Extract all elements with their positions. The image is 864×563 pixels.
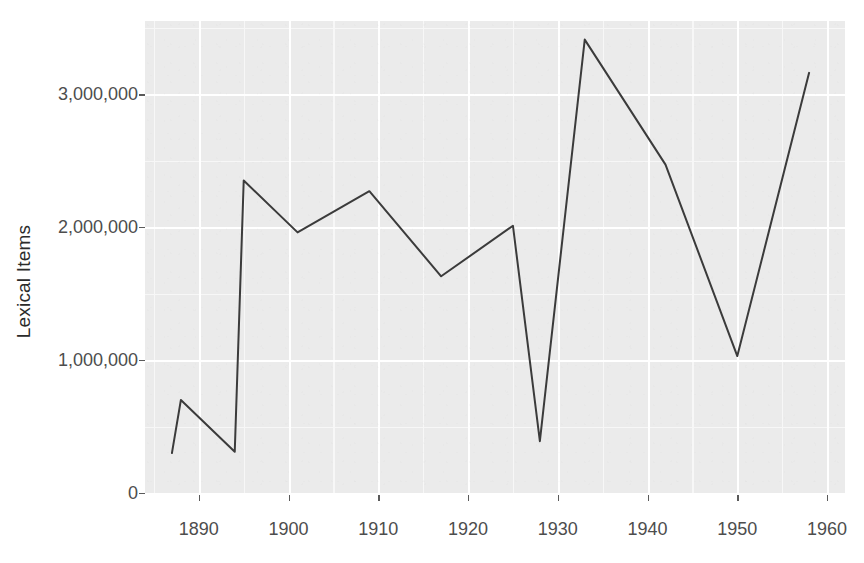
y-tick-mark: [139, 227, 145, 228]
x-tick-label: 1910: [358, 519, 398, 540]
x-tick-label: 1900: [269, 519, 309, 540]
x-tick-mark: [827, 495, 828, 501]
line-series-lexical-items: [172, 40, 809, 454]
x-tick-mark: [648, 495, 649, 501]
plot-panel: [145, 21, 845, 493]
series-layer: [145, 21, 845, 493]
y-tick-mark: [139, 360, 145, 361]
x-tick-mark: [468, 495, 469, 501]
y-axis-tick-labels: 01,000,0002,000,0003,000,000: [34, 0, 138, 563]
x-tick-label: 1930: [538, 519, 578, 540]
y-tick-label: 2,000,000: [58, 217, 138, 238]
x-tick-label: 1940: [628, 519, 668, 540]
y-tick-label: 1,000,000: [58, 350, 138, 371]
x-tick-mark: [558, 495, 559, 501]
y-tick-mark: [139, 94, 145, 95]
chart-root: Lexical Items 01,000,0002,000,0003,000,0…: [0, 0, 864, 563]
x-tick-label: 1890: [179, 519, 219, 540]
x-tick-mark: [737, 495, 738, 501]
x-tick-label: 1950: [717, 519, 757, 540]
y-tick-label: 0: [128, 483, 138, 504]
x-tick-label: 1920: [448, 519, 488, 540]
x-tick-mark: [289, 495, 290, 501]
x-tick-label: 1960: [807, 519, 847, 540]
x-tick-mark: [199, 495, 200, 501]
y-tick-label: 3,000,000: [58, 84, 138, 105]
x-tick-mark: [378, 495, 379, 501]
x-axis-tick-labels: 18901900191019201930194019501960: [0, 519, 864, 549]
y-tick-mark: [139, 493, 145, 494]
